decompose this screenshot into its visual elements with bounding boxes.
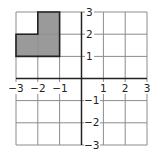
- x-tick-labels: −3 −2 −1 1 2 3: [7, 82, 152, 94]
- x-tick-label: 3: [144, 82, 151, 94]
- x-tick-label: −2: [30, 82, 45, 94]
- y-tick-label: 3: [86, 6, 93, 18]
- coordinate-grid-diagram: −3 −2 −1 1 2 3 3 2 1 −1 −2 −3: [0, 0, 158, 156]
- shaded-cell: [38, 12, 60, 34]
- shaded-cell: [16, 34, 38, 56]
- x-tick-label: −3: [8, 82, 23, 94]
- x-tick-label: 1: [100, 82, 107, 94]
- y-tick-label: 2: [86, 28, 93, 40]
- y-tick-label: 1: [86, 50, 93, 62]
- x-tick-label: −1: [52, 82, 67, 94]
- y-tick-label: −2: [84, 116, 99, 128]
- axes: [16, 12, 147, 145]
- y-tick-label: −3: [84, 139, 99, 151]
- shaded-cell: [38, 34, 60, 56]
- x-tick-label: 2: [122, 82, 129, 94]
- y-tick-label: −1: [84, 94, 99, 106]
